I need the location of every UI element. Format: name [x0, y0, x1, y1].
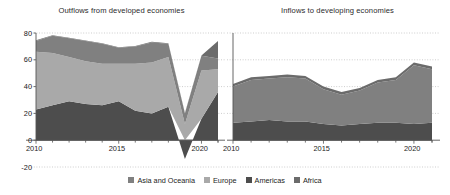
y-axis-tick-label: -20 — [10, 163, 32, 172]
legend-asia-and-oceania[interactable]: Asia and Oceania — [128, 176, 195, 185]
legend-swatch-icon — [294, 177, 300, 183]
x-axis-tick-label: 2015 — [313, 144, 329, 153]
x-axis-tick-label: 2020 — [191, 144, 207, 153]
legend-swatch-icon — [204, 177, 210, 183]
legend-africa[interactable]: Africa — [294, 176, 322, 185]
legend-item-label: Asia and Oceania — [137, 176, 195, 185]
legend-americas[interactable]: Americas — [246, 176, 285, 185]
x-axis-tick-label: 2010 — [26, 144, 42, 153]
legend-item-label: Europe — [213, 176, 237, 185]
chart-legend: Asia and OceaniaEuropeAmericasAfrica — [0, 174, 450, 186]
chart-panel-inflows: Inflows to developing economies 20102015… — [225, 0, 450, 170]
x-axis-tick-label: 2010 — [223, 144, 239, 153]
legend-swatch-icon — [246, 177, 252, 183]
legend-item-label: Africa — [303, 176, 322, 185]
y-axis-tick-label: 20 — [10, 109, 32, 118]
x-axis-tick-label: 2015 — [109, 144, 125, 153]
y-axis-tick-label: 40 — [10, 82, 32, 91]
legend-europe[interactable]: Europe — [204, 176, 237, 185]
stacked-area-chart-figure: Outflows from developed economies -20020… — [0, 0, 450, 195]
legend-item-label: Americas — [255, 176, 285, 185]
y-axis-tick-label: 80 — [10, 29, 32, 38]
y-axis-tick-label: 60 — [10, 55, 32, 64]
legend-swatch-icon — [128, 177, 134, 183]
x-axis-tick-label: 2020 — [404, 144, 420, 153]
chart-panel-outflows: Outflows from developed economies -20020… — [0, 0, 225, 170]
